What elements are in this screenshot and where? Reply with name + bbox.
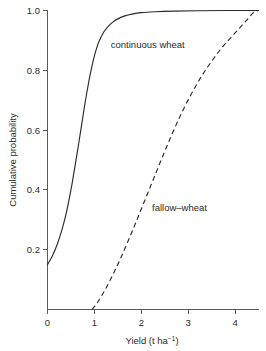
y-axis-ticks: 0.20.40.60.81.0 bbox=[27, 5, 48, 255]
series-line-fallow-wheat bbox=[92, 11, 258, 310]
y-tick-label: 0.2 bbox=[27, 244, 40, 255]
chart-container: 01234 0.20.40.60.81.0 continuous wheatfa… bbox=[0, 0, 266, 351]
y-tick-label: 0.8 bbox=[27, 65, 40, 76]
x-tick-label: 0 bbox=[45, 317, 50, 328]
y-tick-label: 0.4 bbox=[27, 184, 40, 195]
x-tick-label: 2 bbox=[139, 317, 144, 328]
x-axis-title-tail: ) bbox=[175, 335, 178, 346]
x-axis-title: Yield (t ha−1) bbox=[125, 335, 178, 346]
plot-axes bbox=[48, 11, 259, 310]
x-tick-label: 1 bbox=[92, 317, 97, 328]
series-label-continuous-wheat: continuous wheat bbox=[111, 39, 185, 50]
series-label-fallow-wheat: fallow–wheat bbox=[152, 202, 207, 213]
y-tick-label: 1.0 bbox=[27, 5, 40, 16]
cumulative-probability-chart: 01234 0.20.40.60.81.0 continuous wheatfa… bbox=[0, 0, 266, 351]
y-axis-title: Cumulative probability bbox=[7, 113, 18, 207]
x-tick-label: 4 bbox=[232, 317, 237, 328]
series-annotations: continuous wheatfallow–wheat bbox=[111, 39, 208, 213]
x-tick-label: 3 bbox=[186, 317, 191, 328]
data-series-layer bbox=[48, 10, 259, 309]
y-tick-label: 0.6 bbox=[27, 125, 40, 136]
x-axis-ticks: 01234 bbox=[45, 310, 238, 328]
